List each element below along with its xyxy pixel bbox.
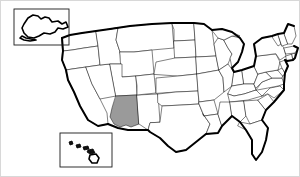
state-MN[interactable] bbox=[194, 23, 216, 57]
state-SD[interactable] bbox=[174, 40, 196, 58]
state-WY[interactable] bbox=[120, 50, 154, 77]
state-MO[interactable] bbox=[197, 70, 224, 102]
hawaii-oahu bbox=[76, 144, 81, 148]
state-ND[interactable] bbox=[172, 23, 195, 41]
map-svg bbox=[0, 0, 300, 177]
hawaii-big-island bbox=[89, 154, 99, 163]
hawaii-kauai bbox=[69, 141, 73, 145]
hawaii-molokai bbox=[83, 146, 89, 150]
hawaii-inset-group[interactable] bbox=[60, 133, 112, 167]
contiguous-states-layer bbox=[62, 23, 298, 160]
state-AL[interactable] bbox=[230, 101, 246, 122]
alaska-landmass bbox=[22, 15, 68, 38]
hawaii-maui bbox=[87, 149, 95, 154]
alaska-inset-group[interactable] bbox=[14, 9, 69, 45]
us-states-locator-map bbox=[0, 0, 300, 177]
state-KS[interactable] bbox=[156, 74, 198, 93]
state-CO[interactable] bbox=[136, 74, 156, 95]
state-NE[interactable] bbox=[154, 57, 197, 76]
state-AZ[interactable] bbox=[110, 95, 139, 127]
state-OK[interactable] bbox=[158, 91, 199, 106]
